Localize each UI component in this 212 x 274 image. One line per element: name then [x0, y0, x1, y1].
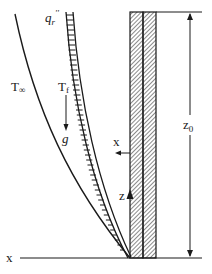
height-dimension: z0 [183, 13, 194, 257]
height-label: z0 [183, 117, 194, 134]
diagram-canvas: x z0 T∞ [0, 0, 212, 274]
baseline-x-label: x [6, 250, 13, 265]
arrow-down-icon [64, 124, 69, 131]
gravity-label: g [62, 131, 69, 146]
arrow-up-icon [187, 13, 193, 20]
gravity-arrow [64, 95, 69, 131]
arrow-down-icon [187, 250, 193, 257]
ambient-temp-label: T∞ [11, 79, 25, 95]
wall-inner-layer [130, 12, 143, 258]
x-arrow-label: x [113, 134, 120, 149]
x-direction-arrow [115, 151, 130, 156]
radiant-flux-label: qr'' [45, 8, 60, 27]
flame-temp-label: Tf [58, 79, 69, 95]
wall-outer-layer [143, 12, 156, 258]
arrow-left-icon [115, 151, 121, 156]
flame-sheet [66, 12, 131, 258]
z-arrow-label: z [119, 188, 125, 203]
wall [130, 12, 156, 258]
